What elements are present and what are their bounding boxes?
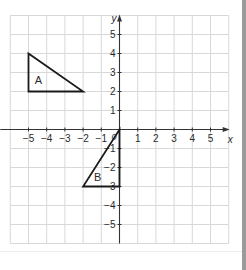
x-tick-label: −5 [23,133,35,144]
scroll-edge [242,0,246,270]
y-tick-label: −5 [104,219,116,230]
x-tick-label: 1 [135,133,141,144]
coordinate-diagram: −5−4−3−2−11234554321−1−2−3−4−5 AB x y 0 [0,0,246,270]
y-axis-label: y [111,13,118,24]
y-tick-label: 3 [110,67,116,78]
x-tick-label: 2 [153,133,159,144]
triangle-label-a: A [35,74,43,86]
coordinate-plane: −5−4−3−2−11234554321−1−2−3−4−5 AB x y 0 [0,0,246,270]
y-tick-label: 4 [110,48,116,59]
x-tick-label: 3 [171,133,177,144]
x-tick-label: −1 [96,133,108,144]
y-tick-label: 2 [110,86,116,97]
y-tick-label: 5 [110,29,116,40]
origin-label: 0 [112,132,117,142]
divider [0,251,242,252]
x-tick-label: −3 [59,133,71,144]
x-tick-label: 4 [190,133,196,144]
x-axis-label: x [227,134,234,145]
y-tick-label: 1 [110,105,116,116]
x-tick-label: −2 [77,133,89,144]
x-tick-label: 5 [208,133,214,144]
y-tick-label: −2 [104,162,116,173]
x-tick-label: −4 [41,133,53,144]
triangle-label-b: B [94,171,101,183]
y-tick-label: −4 [104,200,116,211]
